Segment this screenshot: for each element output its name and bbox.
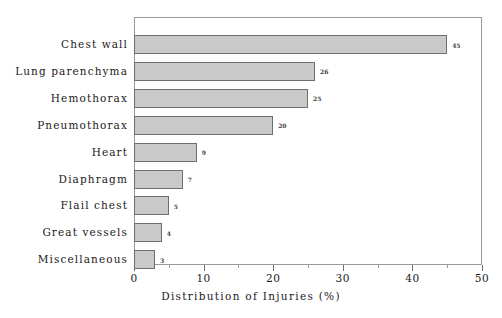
x-tick-major	[134, 265, 135, 271]
bar	[134, 223, 162, 242]
bar-value-label: 25	[313, 95, 321, 102]
category-label: Great vessels	[42, 223, 128, 242]
x-tick-label: 10	[196, 272, 210, 284]
bar-row: 20	[134, 116, 482, 135]
bar-value-label: 20	[278, 122, 286, 129]
bar-row: 7	[134, 170, 482, 189]
bar	[134, 89, 308, 108]
bar-value-label: 7	[188, 176, 192, 183]
x-tick-major	[204, 265, 205, 271]
category-label: Pneumothorax	[37, 116, 128, 135]
x-tick-minor	[169, 265, 170, 268]
category-label: Diaphragm	[59, 170, 128, 189]
bar-row: 25	[134, 89, 482, 108]
bar-value-label: 4	[167, 229, 171, 236]
bar	[134, 143, 197, 162]
bar	[134, 170, 183, 189]
x-axis-ticks	[134, 265, 482, 273]
x-tick-label: 0	[130, 272, 137, 284]
bar-value-label: 9	[202, 149, 206, 156]
bar	[134, 62, 315, 81]
x-tick-minor	[447, 265, 448, 268]
x-tick-label: 40	[405, 272, 419, 284]
x-tick-label: 20	[266, 272, 280, 284]
bar-row: 5	[134, 196, 482, 215]
bar	[134, 196, 169, 215]
x-tick-label: 50	[475, 272, 489, 284]
category-label: Heart	[92, 143, 128, 162]
bar-row: 9	[134, 143, 482, 162]
x-tick-major	[412, 265, 413, 271]
category-label: Lung parenchyma	[15, 62, 128, 81]
bar-row: 4	[134, 223, 482, 242]
x-tick-label: 30	[336, 272, 350, 284]
x-tick-minor	[378, 265, 379, 268]
category-label: Flail chest	[60, 196, 128, 215]
category-label: Chest wall	[61, 35, 128, 54]
bar-chart: 4526252097543 Chest wallLung parenchymaH…	[0, 0, 502, 318]
category-label: Miscellaneous	[38, 250, 128, 269]
x-tick-minor	[308, 265, 309, 268]
x-axis-title: Distribution of Injuries (%)	[0, 290, 502, 302]
bar-value-label: 5	[174, 202, 178, 209]
bar-value-label: 45	[452, 41, 460, 48]
bar-value-label: 3	[160, 256, 164, 263]
bar	[134, 35, 447, 54]
bar	[134, 116, 273, 135]
bar-row: 45	[134, 35, 482, 54]
x-tick-minor	[238, 265, 239, 268]
category-label: Hemothorax	[51, 89, 128, 108]
bar-value-label: 26	[320, 68, 328, 75]
x-tick-major	[273, 265, 274, 271]
x-tick-major	[343, 265, 344, 271]
bar-row: 26	[134, 62, 482, 81]
x-tick-major	[482, 265, 483, 271]
